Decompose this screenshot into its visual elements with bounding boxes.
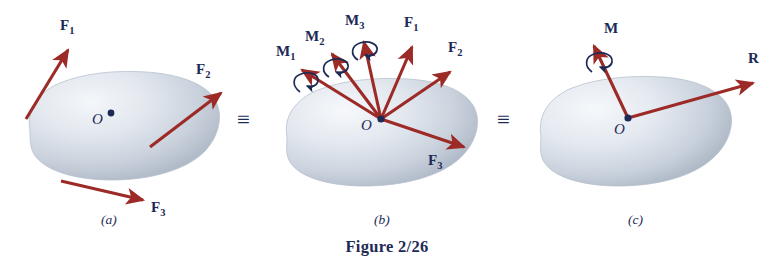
force-label-f3-a: F3: [151, 199, 165, 218]
moment-label-m1-b: M1: [276, 43, 295, 62]
panel-a: O F1 F2 F3 (a): [26, 17, 221, 227]
moment-curl-m1-b: [294, 73, 318, 92]
moment-label-m2-b: M2: [305, 28, 324, 47]
point-o-dot-c: [624, 114, 631, 121]
equivalence-symbol-1: ≡: [237, 107, 250, 132]
panel-c: O M R (c): [540, 20, 759, 227]
rigid-body-blob-c: [540, 76, 731, 186]
point-o-dot-b: [377, 115, 384, 122]
point-o-label-a: O: [92, 111, 103, 127]
point-o-dot-a: [108, 110, 115, 117]
point-o-label-c: O: [614, 121, 625, 137]
force-label-r-c: R: [748, 50, 759, 66]
moment-label-m-c: M: [604, 20, 618, 36]
panel-label-b: (b): [374, 212, 390, 227]
rigid-body-blob-a: [29, 71, 219, 180]
point-o-label-b: O: [361, 117, 372, 133]
equivalence-symbol-2: ≡: [497, 107, 510, 132]
force-label-f1-b: F1: [404, 14, 418, 33]
panel-b: O M1 M2 M3 F1 F2 F3 (b): [276, 12, 478, 227]
force-label-f2-a: F2: [196, 61, 210, 80]
figure-canvas: O F1 F2 F3 (a) ≡: [0, 0, 774, 268]
moment-label-m3-b: M3: [345, 12, 364, 31]
panel-label-c: (c): [628, 212, 643, 227]
force-label-f1-a: F1: [60, 17, 74, 36]
rigid-body-blob-b: [286, 78, 477, 186]
figure-caption: Figure 2/26: [345, 237, 428, 256]
force-vector-f3-a: [61, 181, 143, 200]
figure-2-26: O F1 F2 F3 (a) ≡: [0, 0, 774, 268]
panel-label-a: (a): [101, 212, 117, 227]
force-label-f2-b: F2: [448, 39, 462, 58]
